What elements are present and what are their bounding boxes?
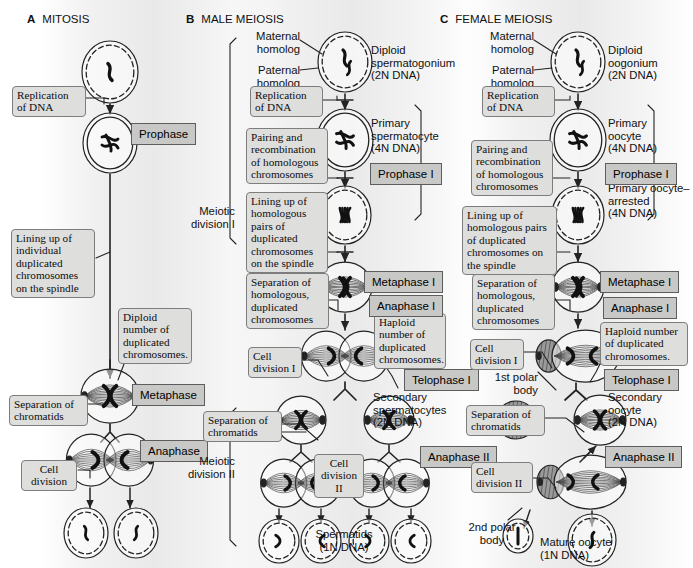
- note-male-separation-chromatids: Separation of chromatids: [203, 411, 282, 442]
- note-female-haploid-number: Haploid number of duplicated chromosomes…: [600, 322, 688, 366]
- column-letter-b: B: [186, 13, 194, 25]
- caption-male-primary-spermatocyte: Primary spermatocyte (4N DNA): [371, 117, 451, 155]
- column-header-male: BMALE MEIOSIS: [186, 13, 284, 25]
- column-header-female: CFEMALE MEIOSIS: [440, 13, 552, 25]
- bracket-label-meiotic-division-1: Meiotic division I: [185, 205, 235, 230]
- note-male-lining-up: Lining up of homologous pairs of duplica…: [246, 192, 328, 273]
- note-mitosis-separation: Separation of chromatids: [9, 395, 88, 426]
- note-male-pairing: Pairing and recombination of homologous …: [246, 128, 328, 184]
- column-name-b: MALE MEIOSIS: [201, 13, 283, 25]
- bracket-label-meiotic-division-2: Meiotic division II: [185, 455, 235, 480]
- caption-male-secondary-spermatocytes: Secondary spermatocytes (2N DNA): [373, 391, 457, 429]
- column-name-a: MITOSIS: [42, 13, 89, 25]
- caption-male-spermatogonium: Diploid spermatogonium (2N DNA): [371, 44, 467, 82]
- note-male-separation-homologous: Separation of homologous, duplicated chr…: [246, 273, 329, 329]
- note-male-cell-division-1: Cell division I: [248, 347, 302, 378]
- note-male-haploid-number: Haploid number of duplicated chromosomes…: [374, 313, 446, 369]
- column-name-c: FEMALE MEIOSIS: [455, 13, 552, 25]
- column-letter-a: A: [27, 13, 35, 25]
- chip-male-anaphase-1: Anaphase I: [369, 295, 443, 317]
- note-mitosis-lining-up: Lining up of individual duplicated chrom…: [11, 229, 95, 298]
- note-female-replication: Replication of DNA: [482, 86, 555, 117]
- chip-female-telophase-1: Telophase I: [604, 369, 679, 391]
- note-female-cell-division-2: Cell division II: [471, 462, 533, 493]
- note-mitosis-cell-division: Cell division: [21, 460, 77, 491]
- chip-male-prophase-1: Prophase I: [370, 163, 442, 185]
- caption-male-maternal: Maternal homolog: [232, 30, 300, 55]
- caption-female-second-polar-body: 2nd polar body: [458, 521, 526, 546]
- note-female-separation-homologous: Separation of homologous, duplicated chr…: [472, 274, 555, 330]
- caption-female-maternal: Maternal homolog: [466, 30, 534, 55]
- note-mitosis-diploid-number: Diploid number of duplicated chromosomes…: [118, 308, 192, 364]
- note-female-cell-division-1: Cell division I: [470, 339, 524, 370]
- chip-mitosis-prophase: Prophase: [131, 123, 196, 145]
- column-letter-c: C: [440, 13, 448, 25]
- caption-male-spermatids: Spermatids (1N DNA): [298, 528, 390, 553]
- chip-female-metaphase-1: Metaphase I: [600, 271, 679, 293]
- note-mitosis-replication: Replication of DNA: [12, 86, 86, 117]
- chip-male-telophase-1: Telophase I: [404, 369, 479, 391]
- note-female-pairing: Pairing and recombination of homologous …: [471, 140, 553, 196]
- figure-canvas: AMITOSIS BMALE MEIOSIS CFEMALE MEIOSIS R…: [0, 0, 693, 568]
- column-header-mitosis: AMITOSIS: [27, 13, 89, 25]
- chip-female-prophase-1: Prophase I: [605, 163, 677, 185]
- chip-female-anaphase-1: Anaphase I: [603, 297, 677, 319]
- caption-female-first-polar-body: 1st polar body: [480, 371, 538, 396]
- note-female-separation-chromatids: Separation of chromatids: [466, 405, 545, 436]
- note-female-lining-up: Lining up of homologous pairs of duplica…: [462, 206, 557, 275]
- chip-female-anaphase-2: Anaphase II: [605, 446, 682, 468]
- caption-female-mature-oocyte: Mature oocyte (1N DNA): [540, 536, 640, 561]
- caption-female-primary-oocyte: Primary oocyte (4N DNA): [608, 117, 688, 155]
- note-male-replication: Replication of DNA: [250, 86, 323, 117]
- chip-mitosis-metaphase: Metaphase: [132, 384, 205, 406]
- caption-female-oogonium: Diploid oogonium (2N DNA): [608, 44, 688, 82]
- caption-female-secondary-oocyte: Secondary oocyte (2N DNA): [608, 391, 688, 429]
- caption-female-primary-oocyte-arrested: Primary oocyte– arrested (4N DNA): [608, 182, 693, 220]
- chip-male-metaphase-1: Metaphase I: [364, 271, 443, 293]
- note-male-cell-division-2: Cell division II: [314, 454, 364, 498]
